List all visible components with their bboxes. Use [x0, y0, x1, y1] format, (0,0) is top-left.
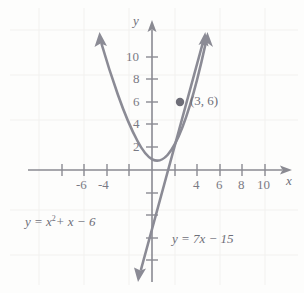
x-tick-label-10: 10: [257, 178, 270, 191]
graph-figure: 10 8 6 4 2 -6 -4 4 6 8 10 y x (3, 6) y =…: [0, 0, 304, 293]
x-axis: [28, 164, 292, 176]
x-axis-name: x: [286, 174, 292, 187]
plot-canvas: [0, 0, 304, 293]
line-equation-label: y = 7x − 15: [172, 232, 234, 245]
y-tick-label-2: 2: [133, 140, 140, 153]
point-marker-3-6: [176, 98, 184, 106]
x-tick-label-8: 8: [238, 178, 245, 191]
y-tick-label-4: 4: [133, 117, 140, 130]
x-tick-label-minus6: -6: [76, 178, 87, 191]
x-tick-label-minus4: -4: [98, 178, 109, 191]
parabola-equation-suffix: + x − 6: [56, 214, 96, 229]
x-tick-label-4: 4: [193, 178, 200, 191]
y-tick-label-6: 6: [133, 95, 140, 108]
y-axis-name: y: [133, 14, 139, 27]
parabola-equation-label: y = x2+ x − 6: [25, 215, 95, 228]
x-tick-label-6: 6: [216, 178, 223, 191]
parabola-equation-prefix: y = x: [25, 214, 52, 229]
point-label-3-6: (3, 6): [190, 94, 218, 107]
y-tick-label-10: 10: [126, 50, 139, 63]
y-tick-label-8: 8: [133, 72, 140, 85]
